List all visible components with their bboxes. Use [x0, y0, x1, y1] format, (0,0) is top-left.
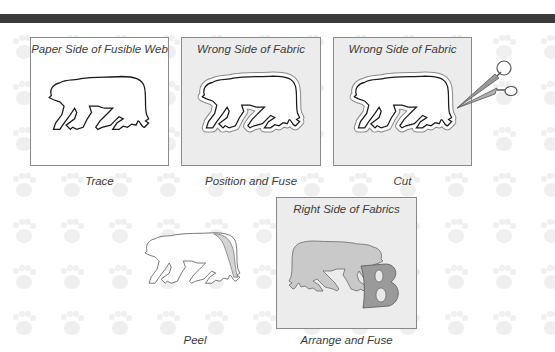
step-position-fuse-panel: Wrong Side of Fabric — [181, 37, 321, 166]
panel-label: Wrong Side of Fabric — [334, 43, 471, 55]
panel-label: Paper Side of Fusible Web — [31, 43, 168, 55]
bear-peel-icon — [141, 228, 246, 290]
bear-fused-icon — [194, 70, 310, 136]
step-caption: Cut — [333, 175, 472, 187]
panel-label: Right Side of Fabrics — [277, 203, 416, 215]
panel-label: Wrong Side of Fabric — [182, 43, 320, 55]
bear-outline-icon — [45, 74, 155, 134]
step-caption: Arrange and Fuse — [276, 334, 417, 346]
scissors-icon — [455, 58, 519, 118]
step-arrange-fuse-panel: Right Side of Fabrics — [276, 197, 417, 329]
header-bar — [0, 14, 555, 23]
step-cut-panel: Wrong Side of Fabric — [333, 37, 472, 166]
letter-b-applique-icon — [353, 260, 405, 312]
bear-cut-icon — [346, 70, 462, 136]
step-caption: Trace — [30, 175, 169, 187]
step-caption: Peel — [150, 334, 240, 346]
step-caption: Position and Fuse — [181, 175, 321, 187]
step-trace-panel: Paper Side of Fusible Web — [30, 37, 169, 166]
